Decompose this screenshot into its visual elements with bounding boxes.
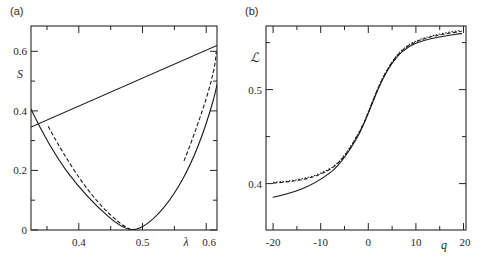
panel-a-ytick-2: 0.4 (13, 105, 27, 117)
panel-a-xlabel: λ (182, 235, 188, 249)
panel-b-xtick-3: 10 (410, 236, 422, 248)
panel-b-ylabel: ℒ (250, 50, 260, 65)
panel-b-y-ticks-right (459, 43, 466, 184)
panel-b-plot: 0.4 0.5 -20 -10 0 10 20 ℒ q (240, 0, 481, 264)
panel-b-likelihood-dotted (273, 30, 462, 182)
panel-a-x-ticks-top (47, 26, 206, 33)
panel-a-xtick-1: 0.5 (136, 236, 150, 248)
panel-b-xtick-4: 20 (460, 236, 472, 248)
panel-b-xtick-0: -20 (266, 236, 281, 248)
panel-a-entropy-solid (31, 84, 217, 229)
panel-a-xtick-0: 0.4 (72, 236, 86, 248)
panel-a-x-ticks-minor (47, 226, 174, 230)
panel-a-plot: 0 0.2 0.4 0.6 0.4 0.5 0.6 S λ (0, 0, 240, 264)
panel-a-label: (a) (10, 5, 23, 17)
panel-b-frame (266, 26, 466, 230)
panel-b-label: (b) (245, 5, 258, 17)
panel-b-xtick-1: -10 (313, 236, 328, 248)
panel-b-x-ticks-major (273, 223, 463, 230)
panel-a-ylabel: S (17, 67, 23, 81)
panel-a-ytick-3: 0.6 (13, 45, 27, 57)
panel-a-envelope-line (31, 45, 217, 127)
panel-a-xtick-2: 0.6 (202, 236, 216, 248)
panel-b: (b) (240, 0, 481, 264)
panel-b-xtick-2: 0 (366, 236, 372, 248)
panel-b-likelihood-dashed (273, 32, 462, 184)
panel-b-x-ticks-top (273, 26, 463, 33)
panel-a-entropy-dashed-left (48, 126, 130, 229)
panel-a-ytick-0: 0 (22, 224, 28, 236)
panel-b-ytick-1: 0.5 (248, 84, 262, 96)
panel-a-frame (31, 26, 217, 230)
panel-b-xlabel: q (441, 238, 447, 252)
panel-a-ytick-1: 0.2 (13, 164, 27, 176)
figure-root: (a) (0, 0, 481, 264)
panel-a-y-ticks-right (210, 51, 217, 230)
panel-b-ytick-0: 0.4 (248, 178, 262, 190)
panel-a: (a) (0, 0, 240, 264)
panel-a-y-ticks-minor (31, 81, 35, 200)
